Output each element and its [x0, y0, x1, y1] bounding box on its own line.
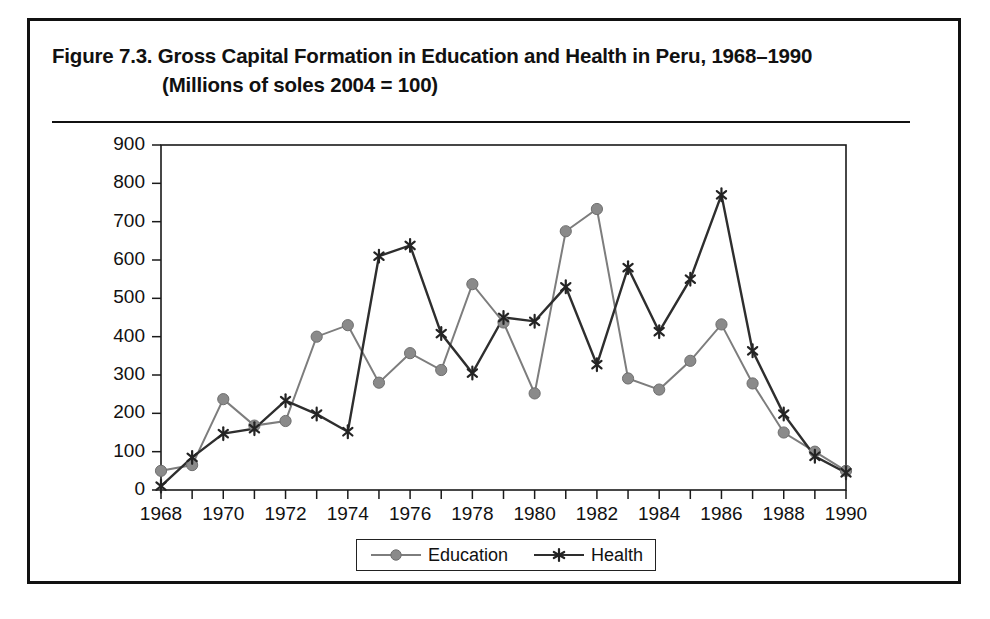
x-tick-label: 1976 — [389, 503, 431, 524]
x-tick-label: 1974 — [327, 503, 370, 524]
y-tick-label: 900 — [113, 133, 145, 154]
data-point-education — [591, 203, 602, 214]
data-point-education — [654, 384, 665, 395]
y-tick-label: 700 — [113, 210, 145, 231]
x-tick-label: 1968 — [140, 503, 182, 524]
chart-legend: Education Health — [356, 539, 656, 571]
y-tick-label: 300 — [113, 363, 145, 384]
x-tick-label: 1970 — [202, 503, 244, 524]
data-point-education — [404, 348, 415, 359]
data-point-education — [218, 394, 229, 405]
x-axis-labels: 1968197019721974197619781980198219841986… — [140, 503, 867, 524]
data-point-education — [560, 226, 571, 237]
data-point-education — [311, 331, 322, 342]
legend-entry-health: Health — [532, 545, 643, 566]
x-tick-label: 1984 — [638, 503, 681, 524]
data-point-education — [622, 373, 633, 384]
x-tick-label: 1980 — [513, 503, 555, 524]
x-axis-ticks — [161, 490, 846, 499]
y-tick-label: 800 — [113, 171, 145, 192]
data-point-education — [747, 378, 758, 389]
data-point-education — [685, 355, 696, 366]
legend-label-education: Education — [428, 545, 508, 566]
x-tick-label: 1978 — [451, 503, 493, 524]
data-point-education — [716, 319, 727, 330]
y-tick-label: 200 — [113, 401, 145, 422]
data-point-education — [373, 377, 384, 388]
data-point-education — [155, 465, 166, 476]
x-tick-label: 1988 — [763, 503, 805, 524]
y-tick-label: 600 — [113, 248, 145, 269]
legend-entry-education: Education — [369, 545, 508, 566]
x-tick-label: 1972 — [264, 503, 306, 524]
data-point-education — [280, 415, 291, 426]
legend-label-health: Health — [591, 545, 643, 566]
data-point-education — [342, 320, 353, 331]
x-tick-label: 1986 — [700, 503, 742, 524]
data-point-education — [529, 388, 540, 399]
line-chart: 0100200300400500600700800900 19681970197… — [30, 21, 964, 587]
y-tick-label: 400 — [113, 325, 145, 346]
y-axis-labels: 0100200300400500600700800900 — [113, 133, 145, 499]
y-tick-label: 500 — [113, 286, 145, 307]
legend-swatch-education-icon — [369, 546, 423, 564]
y-tick-label: 0 — [134, 478, 145, 499]
data-point-education — [436, 364, 447, 375]
y-tick-label: 100 — [113, 440, 145, 461]
figure-frame: Figure 7.3. Gross Capital Formation in E… — [27, 18, 961, 584]
legend-swatch-health-icon — [532, 546, 586, 564]
data-point-education — [467, 279, 478, 290]
y-axis-ticks — [152, 145, 161, 490]
x-tick-label: 1990 — [825, 503, 867, 524]
data-point-education — [778, 427, 789, 438]
plot-area: 0100200300400500600700800900 19681970197… — [30, 21, 964, 587]
x-tick-label: 1982 — [576, 503, 618, 524]
